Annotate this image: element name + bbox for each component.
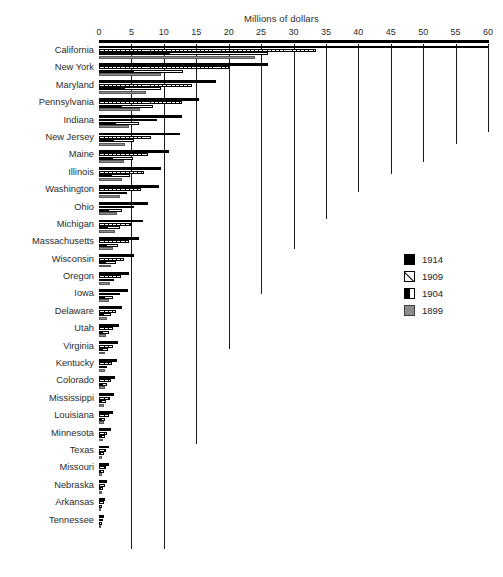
x-tick-label: 45	[386, 27, 396, 37]
bar-group	[99, 63, 488, 77]
bar-row: Tennessee	[99, 514, 488, 531]
bar-group	[99, 98, 488, 112]
bar-group	[99, 446, 488, 460]
state-label: Maryland	[56, 80, 94, 90]
bar-group	[99, 150, 488, 164]
bar-group	[99, 46, 488, 60]
x-tick-label: 25	[256, 27, 266, 37]
x-axis-tick-labels: 051015202530354045505560	[0, 27, 503, 39]
state-label: Missouri	[59, 462, 94, 472]
bar-row: California	[99, 44, 488, 61]
bar-row: Colorado	[99, 374, 488, 391]
bar-row: Nebraska	[99, 479, 488, 496]
chart-figure: Millions of dollars 05101520253035404550…	[0, 0, 503, 577]
state-label: Illinois	[68, 167, 94, 177]
bar-1899	[99, 299, 109, 302]
bar-row: Texas	[99, 444, 488, 461]
legend-label: 1909	[422, 271, 443, 282]
bar-1899	[99, 282, 110, 285]
x-tick-label: 10	[159, 27, 169, 37]
bar-1899	[99, 421, 104, 424]
bar-1899	[99, 456, 102, 459]
bar-group	[99, 133, 488, 147]
state-label: California	[55, 45, 94, 55]
x-tick-label: 40	[353, 27, 363, 37]
bar-1899	[99, 56, 255, 59]
bar-row: New York	[99, 61, 488, 78]
bar-1899	[99, 91, 146, 94]
x-tick-label: 50	[418, 27, 428, 37]
bar-group	[99, 341, 488, 355]
bar-row: Louisiana	[99, 409, 488, 426]
bar-group	[99, 376, 488, 390]
x-tick-label: 20	[224, 27, 234, 37]
bar-1899	[99, 160, 124, 163]
bar-group	[99, 167, 488, 181]
bar-1899	[99, 178, 122, 181]
bar-1899	[99, 491, 102, 494]
state-label: New York	[55, 62, 94, 72]
diagonal-white-swatch-icon	[404, 271, 415, 282]
legend-item-1904[interactable]: 1904	[404, 285, 443, 302]
bar-1899	[99, 212, 117, 215]
state-label: Iowa	[74, 288, 94, 298]
bar-group	[99, 480, 488, 494]
bar-row: Minnesota	[99, 427, 488, 444]
state-label: Texas	[70, 445, 94, 455]
state-label: Arkansas	[55, 497, 94, 507]
bar-row: Utah	[99, 322, 488, 339]
chart-title-text: Millions of dollars	[244, 13, 319, 24]
bar-group	[99, 411, 488, 425]
bar-1899	[99, 265, 111, 268]
gray-swatch-icon	[404, 305, 415, 316]
bar-1899	[99, 386, 105, 389]
state-label: New Jersey	[45, 132, 94, 142]
bar-row: Missouri	[99, 461, 488, 478]
bar-row: Virginia	[99, 340, 488, 357]
bar-1899	[99, 334, 106, 337]
bar-row: Mississippi	[99, 392, 488, 409]
bar-row: New Jersey	[99, 131, 488, 148]
bar-group	[99, 80, 488, 94]
x-tick-label: 30	[288, 27, 298, 37]
bar-group	[99, 359, 488, 373]
half-black-swatch-icon	[404, 288, 415, 299]
bar-group	[99, 115, 488, 129]
state-label: Mississippi	[49, 393, 94, 403]
bar-group	[99, 185, 488, 199]
legend-item-1914[interactable]: 1914	[404, 251, 443, 268]
bar-1899	[99, 369, 105, 372]
bar-row: Arkansas	[99, 496, 488, 513]
state-label: Virginia	[63, 341, 94, 351]
legend-item-1909[interactable]: 1909	[404, 268, 443, 285]
x-tick-label: 35	[321, 27, 331, 37]
bar-1899	[99, 473, 102, 476]
bar-1899	[99, 404, 104, 407]
legend-label: 1904	[422, 288, 443, 299]
bar-row: Ohio	[99, 201, 488, 218]
bar-1899	[99, 195, 120, 198]
x-tick-label: 0	[96, 27, 101, 37]
bar-row: Washington	[99, 183, 488, 200]
legend-label: 1914	[422, 254, 443, 265]
legend: 1914 1909 1904 1899	[404, 251, 443, 319]
bar-1899	[99, 230, 115, 233]
legend-item-1899[interactable]: 1899	[404, 302, 443, 319]
bar-row: Pennsylvania	[99, 96, 488, 113]
bar-row: Maine	[99, 148, 488, 165]
bar-group	[99, 324, 488, 338]
x-tick-label: 15	[191, 27, 201, 37]
bar-row: Indiana	[99, 114, 488, 131]
x-tick-label: 55	[451, 27, 461, 37]
bar-group	[99, 498, 488, 512]
bar-1899	[99, 108, 140, 111]
state-label: Minnesota	[51, 428, 94, 438]
solid-black-swatch-icon	[404, 254, 415, 265]
state-label: Louisiana	[54, 410, 94, 420]
bar-group	[99, 463, 488, 477]
state-label: Wisconsin	[52, 254, 94, 264]
state-label: Colorado	[56, 375, 94, 385]
bar-1899	[99, 525, 101, 528]
bar-group	[99, 515, 488, 529]
bar-group	[99, 428, 488, 442]
